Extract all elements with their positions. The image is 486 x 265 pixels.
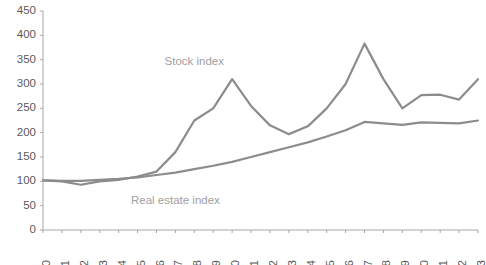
x-tick-label: 2011 bbox=[437, 260, 449, 265]
x-tick-label: 1995 bbox=[135, 260, 147, 265]
y-tick-label: 150 bbox=[17, 150, 36, 162]
x-tick-label: 2001 bbox=[248, 260, 260, 265]
y-tick-label: 50 bbox=[23, 199, 36, 211]
series-line-real-estate-index bbox=[43, 121, 478, 181]
x-tick-label: 1992 bbox=[78, 260, 90, 265]
data-series-group bbox=[43, 44, 478, 185]
y-tick-label: 450 bbox=[17, 4, 36, 16]
x-tick-label: 2012 bbox=[456, 260, 468, 265]
series-label-stock-index: Stock index bbox=[165, 55, 225, 67]
x-tick-label: 1998 bbox=[191, 260, 203, 265]
x-tick-label: 2009 bbox=[399, 260, 411, 265]
series-annotations: Stock indexReal estate index bbox=[131, 55, 224, 206]
x-tick-label: 2002 bbox=[267, 260, 279, 265]
y-axis-group: 050100150200250300350400450 bbox=[17, 4, 43, 235]
y-tick-label: 300 bbox=[17, 77, 36, 89]
chart-canvas: 050100150200250300350400450 199019911992… bbox=[0, 0, 486, 265]
y-tick-label: 100 bbox=[17, 174, 36, 186]
x-tick-label: 2006 bbox=[343, 260, 355, 265]
x-tick-label: 2013 bbox=[475, 260, 486, 265]
x-tick-label: 1994 bbox=[116, 259, 128, 265]
x-tick-label: 2005 bbox=[324, 260, 336, 265]
x-tick-label: 1991 bbox=[59, 260, 71, 265]
series-label-real-estate-index: Real estate index bbox=[131, 194, 220, 206]
x-tick-label: 2008 bbox=[380, 260, 392, 265]
x-tick-label: 1990 bbox=[40, 260, 52, 265]
x-tick-label: 1996 bbox=[154, 260, 166, 265]
x-tick-label: 2003 bbox=[286, 260, 298, 265]
y-tick-labels: 050100150200250300350400450 bbox=[17, 4, 36, 235]
x-tick-label: 2004 bbox=[305, 259, 317, 265]
series-line-stock-index bbox=[43, 44, 478, 185]
x-tick-labels: 1990199119921993199419951996199719981999… bbox=[40, 259, 486, 265]
y-tick-label: 200 bbox=[17, 126, 36, 138]
x-tick-label: 1999 bbox=[210, 260, 222, 265]
x-tick-label: 1993 bbox=[97, 260, 109, 265]
x-tick-label: 2000 bbox=[229, 260, 241, 265]
y-tick-label: 250 bbox=[17, 101, 36, 113]
x-tick-label: 1997 bbox=[172, 260, 184, 265]
x-tick-label: 2007 bbox=[362, 260, 374, 265]
x-tick-label: 2010 bbox=[418, 260, 430, 265]
x-axis-group: 1990199119921993199419951996199719981999… bbox=[40, 230, 486, 265]
y-tick-label: 0 bbox=[30, 223, 36, 235]
y-tick-label: 350 bbox=[17, 53, 36, 65]
line-chart: 050100150200250300350400450 199019911992… bbox=[0, 0, 486, 265]
y-tick-label: 400 bbox=[17, 28, 36, 40]
